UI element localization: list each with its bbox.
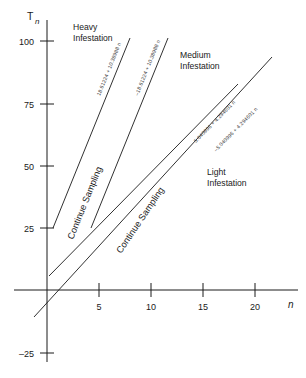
y-tick-label-minus-25: –25: [19, 349, 34, 359]
chart-svg: 100 75 50 25 –25 5 10 15 20 T n n 18.612…: [0, 0, 306, 378]
y-axis-title-subscript: n: [35, 17, 40, 26]
equation-heavy-upper: 18.61224 + 10.38988 n: [95, 42, 122, 97]
x-tick-label-15: 15: [198, 302, 208, 312]
region-label-heavy-line2: Infestation: [73, 33, 113, 43]
x-axis-title: n: [288, 299, 294, 310]
equation-heavy-lower: –18.61224 + 10.38988 n: [133, 39, 161, 97]
y-tick-label-100: 100: [19, 37, 34, 47]
y-axis-title: T: [27, 10, 34, 22]
region-label-heavy-line1: Heavy: [73, 22, 98, 32]
x-tick-label-5: 5: [96, 302, 101, 312]
region-label-medium-line1: Medium: [180, 50, 211, 60]
region-label-light-line1: Light: [207, 167, 226, 177]
y-tick-label-75: 75: [24, 100, 34, 110]
y-tick-label-50: 50: [24, 162, 34, 172]
band-label-continue-sampling-heavy: Continue Sampling: [66, 165, 104, 241]
y-tick-label-25: 25: [24, 224, 34, 234]
region-label-light-line2: Infestation: [207, 178, 247, 188]
x-tick-label-20: 20: [250, 302, 260, 312]
region-label-medium-line2: Infestation: [180, 61, 220, 71]
x-tick-label-10: 10: [146, 302, 156, 312]
sequential-sampling-chart: 100 75 50 25 –25 5 10 15 20 T n n 18.612…: [0, 0, 306, 378]
